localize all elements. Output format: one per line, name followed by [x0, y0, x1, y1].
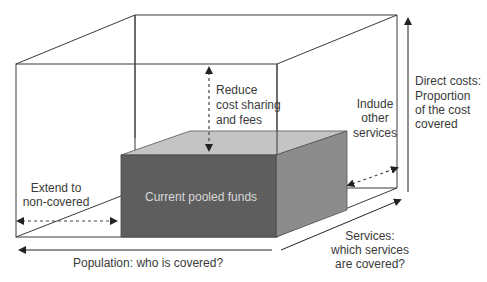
reduce-cost-label-1: Reduce [216, 83, 257, 98]
include-services-arrow [352, 168, 397, 184]
reduce-cost-label-2: cost sharing [216, 98, 281, 113]
current-pooled-funds-label: Current pooled funds [145, 190, 257, 205]
population-label: Population: who is covered? [73, 256, 223, 271]
direct-costs-label-2: Proportion [415, 89, 470, 104]
extend-label-2: non-covered [20, 195, 92, 210]
extend-label-1: Extend to [20, 181, 92, 196]
direct-costs-label-3: of the cost [415, 103, 470, 118]
include-services-label-2: other [350, 111, 400, 126]
services-label-1: Services: [330, 229, 410, 244]
direct-costs-label-4: covered [415, 117, 458, 132]
services-label-3: are covered? [330, 257, 410, 272]
include-services-label-3: services [350, 126, 400, 141]
include-services-label-1: Indude [350, 97, 400, 112]
reduce-cost-label-3: and fees [216, 113, 262, 128]
current-pooled-funds-box [121, 131, 347, 237]
direct-costs-label-1: Direct costs: [415, 74, 481, 89]
coverage-cube-diagram [0, 0, 487, 282]
services-label-2: which services [330, 243, 410, 258]
